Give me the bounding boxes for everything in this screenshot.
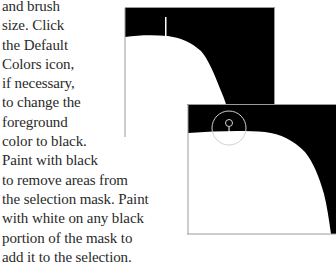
text-line: add it to the selection.	[2, 248, 149, 266]
text-line: with white on any black	[2, 209, 149, 228]
text-line: to remove areas from	[2, 171, 149, 190]
text-line: the selection mask. Paint	[2, 190, 149, 209]
mask-image-after	[187, 104, 336, 235]
text-line: Paint with black	[2, 151, 149, 170]
text-line: portion of the mask to	[2, 229, 149, 248]
mask-figure-after	[187, 104, 336, 235]
